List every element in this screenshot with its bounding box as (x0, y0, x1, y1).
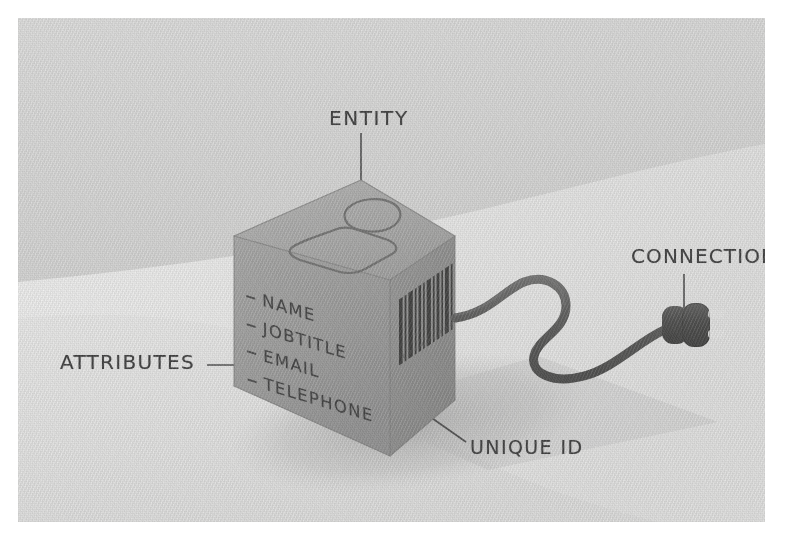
bullet-dash-icon (246, 295, 255, 299)
illustration-svg (18, 18, 765, 522)
bullet-dash-icon (248, 378, 257, 382)
callout-label-attributes: ATTRIBUTES (60, 350, 195, 374)
bullet-dash-icon (247, 351, 256, 355)
callout-label-entity: ENTITY (329, 106, 409, 130)
plug-body-front (682, 303, 710, 347)
callout-label-unique-id: UNIQUE ID (470, 436, 583, 458)
illustration-plate: 1 8 3 4 6 7 8 0 4 9 NAME JOBTITLE EMAIL … (18, 18, 765, 522)
illustration-canvas: 1 8 3 4 6 7 8 0 4 9 NAME JOBTITLE EMAIL … (0, 0, 785, 543)
bullet-dash-icon (247, 323, 256, 327)
callout-label-connection: CONNECTION (631, 244, 765, 268)
plug-prong-bottom (708, 330, 724, 338)
plug-prong-top (708, 310, 724, 318)
